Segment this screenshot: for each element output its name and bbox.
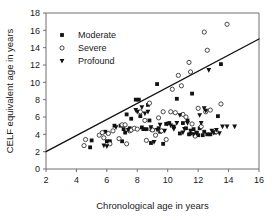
data-point-moderate <box>88 145 92 149</box>
data-point-severe <box>219 102 223 106</box>
x-tick-label: 6 <box>104 175 109 185</box>
data-point-severe <box>147 101 151 105</box>
data-point-severe <box>156 116 160 120</box>
data-point-severe <box>169 110 173 114</box>
data-point-severe <box>173 111 177 115</box>
y-tick-label: 4 <box>35 130 40 140</box>
data-point-profound <box>104 144 109 149</box>
y-tick-label: 14 <box>30 43 40 53</box>
data-point-severe <box>184 115 188 119</box>
data-point-severe <box>100 131 104 135</box>
y-tick-label: 10 <box>30 78 40 88</box>
data-point-severe <box>123 123 127 127</box>
data-point-severe <box>153 133 157 137</box>
data-point-moderate <box>129 117 133 121</box>
data-point-moderate <box>190 92 194 96</box>
data-point-profound <box>185 121 190 126</box>
data-point-moderate <box>148 119 152 123</box>
data-point-moderate <box>178 132 182 136</box>
data-point-profound <box>232 124 237 129</box>
data-point-severe <box>188 70 192 74</box>
data-point-moderate <box>161 142 165 146</box>
data-point-severe <box>102 136 106 140</box>
x-tick-label: 8 <box>135 175 140 185</box>
data-point-severe <box>82 144 86 148</box>
data-point-moderate <box>181 121 185 125</box>
y-tick-label: 16 <box>30 26 40 36</box>
data-point-profound <box>220 124 225 129</box>
data-point-severe <box>111 129 115 133</box>
data-point-severe <box>196 106 200 110</box>
x-tick-label: 16 <box>254 175 264 185</box>
data-point-severe <box>144 138 148 142</box>
data-point-profound <box>225 124 230 129</box>
y-tick-label: 18 <box>30 8 40 18</box>
y-axis-title: CELF equivalent age in years <box>4 28 15 153</box>
data-point-moderate <box>125 113 129 117</box>
data-point-severe <box>190 122 194 126</box>
data-point-moderate <box>90 139 94 143</box>
data-point-severe <box>83 137 87 141</box>
y-tick-label: 6 <box>35 112 40 122</box>
data-point-moderate <box>155 82 159 86</box>
y-tick-label: 12 <box>30 60 40 70</box>
x-tick-label: 4 <box>74 175 79 185</box>
data-point-severe <box>106 131 110 135</box>
data-point-moderate <box>219 62 223 66</box>
legend-marker-profound <box>60 59 65 64</box>
legend-marker-moderate <box>60 33 64 37</box>
data-point-moderate <box>149 141 153 145</box>
data-point-moderate <box>123 131 127 135</box>
scatter-plot-figure: 024681012141618246810121416Chronological… <box>0 0 275 220</box>
data-point-severe <box>135 127 139 131</box>
legend-label-severe: Severe <box>78 43 107 53</box>
chart-canvas: 024681012141618246810121416Chronological… <box>0 0 275 220</box>
legend-label-profound: Profound <box>78 56 115 66</box>
data-point-profound <box>206 68 211 73</box>
data-point-moderate <box>122 127 126 131</box>
data-point-severe <box>125 142 129 146</box>
data-point-severe <box>117 137 121 141</box>
data-point-severe <box>205 48 209 52</box>
data-point-profound <box>142 111 147 116</box>
data-point-severe <box>202 30 206 34</box>
data-point-moderate <box>216 114 220 118</box>
x-tick-label: 14 <box>224 175 234 185</box>
data-point-severe <box>187 60 191 64</box>
data-point-profound <box>171 127 176 132</box>
data-point-moderate <box>137 98 141 102</box>
x-tick-label: 10 <box>163 175 173 185</box>
y-tick-label: 8 <box>35 95 40 105</box>
legend-label-moderate: Moderate <box>78 30 116 40</box>
data-point-severe <box>225 22 229 26</box>
y-tick-label: 2 <box>35 147 40 157</box>
data-point-severe <box>208 108 212 112</box>
data-point-profound <box>197 113 202 118</box>
data-point-moderate <box>138 114 142 118</box>
x-tick-label: 2 <box>43 175 48 185</box>
data-point-severe <box>164 137 168 141</box>
data-point-moderate <box>145 127 149 131</box>
data-point-severe <box>170 87 174 91</box>
legend-marker-severe <box>60 46 64 50</box>
data-point-severe <box>143 118 147 122</box>
data-point-moderate <box>175 97 179 101</box>
data-point-severe <box>161 110 165 114</box>
x-axis-title: Chronological age in years <box>96 200 209 211</box>
data-point-moderate <box>201 133 205 137</box>
data-point-severe <box>179 84 183 88</box>
data-point-severe <box>176 73 180 77</box>
x-tick-label: 12 <box>193 175 203 185</box>
y-tick-label: 0 <box>35 164 40 174</box>
